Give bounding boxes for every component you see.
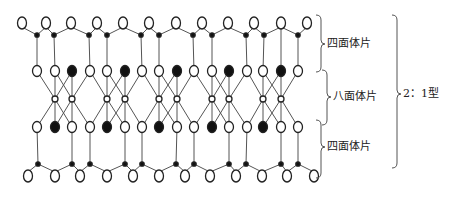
silicon-node bbox=[296, 162, 300, 166]
silicon-node bbox=[105, 33, 109, 37]
oxygen-node bbox=[232, 170, 241, 182]
oxygen-node bbox=[294, 122, 303, 133]
hydroxyl-node bbox=[225, 66, 234, 77]
silicon-node bbox=[279, 162, 283, 166]
label-octahedral-sheet: 八面体片 bbox=[333, 91, 377, 103]
hydroxyl-node bbox=[173, 66, 182, 77]
oxygen-node bbox=[198, 17, 207, 29]
silicon-node bbox=[52, 33, 56, 37]
atom-nodes bbox=[18, 17, 319, 182]
octahedral-cation-node bbox=[278, 96, 284, 102]
oxygen-node bbox=[51, 170, 60, 182]
oxygen-node bbox=[42, 17, 51, 29]
oxygen-node bbox=[258, 170, 267, 182]
oxygen-node bbox=[138, 66, 147, 77]
silicon-node bbox=[174, 162, 178, 166]
octahedral-cation-node bbox=[69, 96, 75, 102]
silicon-node bbox=[192, 162, 196, 166]
silicon-node bbox=[227, 162, 231, 166]
silicon-node bbox=[210, 33, 214, 37]
oxygen-node bbox=[86, 122, 95, 133]
silicon-node bbox=[35, 33, 39, 37]
octahedral-cation-node bbox=[260, 96, 266, 102]
oxygen-node bbox=[303, 17, 312, 29]
oxygen-node bbox=[190, 66, 199, 77]
brace-tetra-top bbox=[316, 15, 325, 72]
oxygen-node bbox=[145, 17, 154, 29]
silicon-node bbox=[296, 33, 300, 37]
oxygen-node bbox=[103, 170, 112, 182]
oxygen-node bbox=[76, 170, 85, 182]
oxygen-node bbox=[24, 170, 33, 182]
silicon-node bbox=[36, 162, 40, 166]
hydroxyl-node bbox=[277, 66, 286, 77]
hydroxyl-node bbox=[208, 122, 217, 133]
oxygen-node bbox=[129, 170, 138, 182]
oxygen-node bbox=[51, 66, 60, 77]
octahedral-cation-node bbox=[156, 96, 162, 102]
silicon-node bbox=[262, 33, 266, 37]
oxygen-node bbox=[138, 122, 147, 133]
hydroxyl-node bbox=[121, 66, 130, 77]
oxygen-node bbox=[208, 66, 217, 77]
octahedral-cation-node bbox=[226, 96, 232, 102]
oxygen-node bbox=[283, 170, 292, 182]
oxygen-node bbox=[250, 17, 259, 29]
oxygen-node bbox=[173, 122, 182, 133]
brace-2-1-layer bbox=[392, 15, 401, 168]
oxygen-node bbox=[294, 66, 303, 77]
oxygen-node bbox=[243, 122, 252, 133]
silicon-node bbox=[87, 33, 91, 37]
clay-structure-diagram bbox=[0, 0, 449, 198]
label-tetrahedral-sheet-top: 四面体片 bbox=[327, 38, 371, 50]
hydroxyl-node bbox=[51, 122, 60, 133]
oxygen-node bbox=[277, 122, 286, 133]
bond-lines bbox=[22, 27, 314, 172]
silicon-node bbox=[244, 162, 248, 166]
silicon-node bbox=[157, 33, 161, 37]
silicon-node bbox=[191, 33, 195, 37]
octahedral-cation-node bbox=[52, 96, 58, 102]
label-tetrahedral-sheet-bottom: 四面体片 bbox=[327, 141, 371, 153]
oxygen-node bbox=[121, 122, 130, 133]
oxygen-node bbox=[172, 17, 181, 29]
silicon-node bbox=[244, 33, 248, 37]
octahedral-cation-node bbox=[104, 96, 110, 102]
oxygen-node bbox=[155, 66, 164, 77]
hydroxyl-node bbox=[68, 66, 77, 77]
oxygen-node bbox=[86, 66, 95, 77]
oxygen-node bbox=[259, 66, 268, 77]
label-2-1-type: 2：1型 bbox=[403, 88, 439, 100]
octahedral-cation-node bbox=[122, 96, 128, 102]
oxygen-node bbox=[67, 17, 76, 29]
silicon-node bbox=[140, 162, 144, 166]
oxygen-node bbox=[155, 170, 164, 182]
brace-octa bbox=[322, 70, 331, 125]
oxygen-node bbox=[310, 170, 319, 182]
oxygen-node bbox=[103, 66, 112, 77]
oxygen-node bbox=[206, 170, 215, 182]
oxygen-node bbox=[68, 122, 77, 133]
oxygen-node bbox=[33, 66, 42, 77]
oxygen-node bbox=[119, 17, 128, 29]
brace-tetra-bottom bbox=[316, 120, 325, 178]
hydroxyl-node bbox=[155, 122, 164, 133]
oxygen-node bbox=[190, 122, 199, 133]
oxygen-node bbox=[243, 66, 252, 77]
oxygen-node bbox=[33, 122, 42, 133]
oxygen-node bbox=[224, 17, 233, 29]
octahedral-cation-node bbox=[209, 96, 215, 102]
silicon-node bbox=[88, 162, 92, 166]
octahedral-cation-node bbox=[174, 96, 180, 102]
silicon-node bbox=[139, 33, 143, 37]
silicon-node bbox=[123, 162, 127, 166]
oxygen-node bbox=[181, 170, 190, 182]
hydroxyl-node bbox=[103, 122, 112, 133]
oxygen-node bbox=[93, 17, 102, 29]
silicon-node bbox=[70, 162, 74, 166]
oxygen-node bbox=[277, 17, 286, 29]
hydroxyl-node bbox=[259, 122, 268, 133]
oxygen-node bbox=[225, 122, 234, 133]
oxygen-node bbox=[18, 17, 27, 29]
